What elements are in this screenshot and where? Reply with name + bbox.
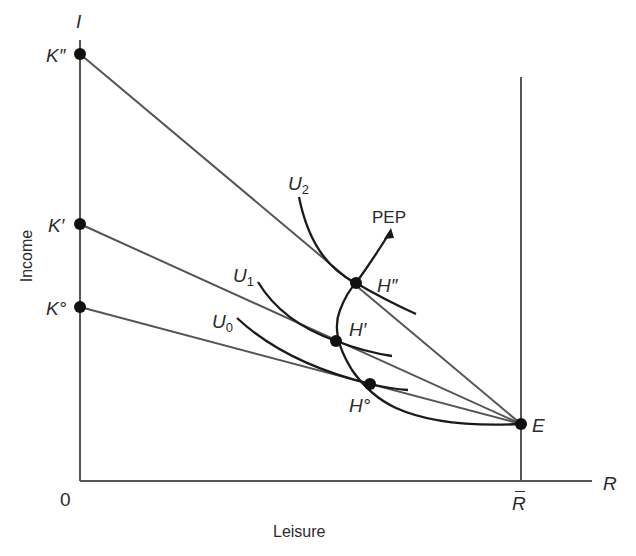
label-u0-base: U [212, 311, 226, 332]
x-axis-symbol: R [603, 474, 617, 493]
label-e: E [532, 416, 545, 435]
point-k-zero [74, 301, 86, 313]
label-u1-sub: 1 [247, 274, 254, 289]
label-u0: U0 [212, 312, 233, 334]
point-h-double-prime [350, 277, 362, 289]
label-h-prime: H′ [349, 320, 366, 339]
label-u2-base: U [288, 173, 302, 194]
label-h-double-prime: H″ [377, 276, 397, 295]
point-h-prime [330, 335, 342, 347]
y-axis-symbol: I [76, 12, 81, 31]
point-h-zero [364, 378, 376, 390]
pep-arrowhead-icon [384, 228, 394, 239]
point-k-double-prime [74, 48, 86, 60]
x-axis-title: Leisure [273, 524, 325, 540]
label-u2: U2 [288, 174, 309, 196]
label-u1-base: U [233, 265, 247, 286]
label-u2-sub: 2 [302, 182, 309, 197]
label-k-double-prime: K″ [46, 46, 65, 65]
max-leisure-label: R [512, 494, 526, 513]
label-pep: PEP [372, 209, 406, 226]
label-k-zero: K° [46, 299, 66, 318]
label-u0-sub: 0 [226, 320, 233, 335]
y-axis-title: Income [19, 229, 35, 283]
labor-leisure-diagram [0, 0, 636, 556]
point-e [515, 418, 527, 430]
budget-line-k-double-prime [80, 54, 521, 424]
point-k-prime [74, 218, 86, 230]
label-h-zero: H° [349, 396, 370, 415]
label-u1: U1 [233, 266, 254, 288]
origin-label: 0 [60, 490, 71, 509]
label-k-prime: K′ [48, 216, 64, 235]
